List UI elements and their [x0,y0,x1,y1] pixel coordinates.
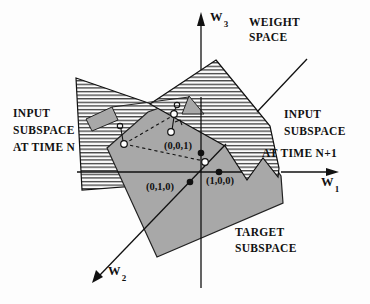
open-point-near-origin [202,159,209,166]
point-label-100: (1,0,0) [206,175,234,186]
w2-axis-arrowhead [92,270,103,283]
w3-axis-label: W3 [210,11,228,27]
target-subspace-label-line1: TARGET [235,226,285,238]
input-subspace-n-label-line1: INPUT [13,107,50,119]
w2-axis-label: W2 [108,265,126,281]
target-subspace-label-line2: SUBSPACE [235,242,297,254]
input-subspace-n-label-line2: SUBSPACE [13,124,75,136]
open-point-middle [168,129,175,136]
point-0-0-1 [198,150,205,157]
input-subspace-n1-label-line1: INPUT [284,108,321,120]
point-0-1-0 [187,179,194,186]
input-subspace-n1-label-line3: AT TIME N+1 [262,147,337,159]
input-subspace-n1-label-line2: SUBSPACE [284,125,346,137]
point-label-001: (0,0,1) [164,140,192,151]
open-point-upper [171,111,178,118]
weight-space-label-line1: WEIGHT [249,16,300,28]
weight-space-diagram: W3 W1 W2 WEIGHT SPACE INPUT SUBSPACE AT … [0,0,370,304]
w3-axis-arrowhead [197,12,205,26]
point-label-010: (0,1,0) [146,181,174,192]
input-subspace-n-label-line3: AT TIME N [13,141,75,153]
w1-axis-label: W1 [321,176,339,192]
weight-space-label-line2: SPACE [249,31,287,43]
open-point-left [121,141,128,148]
